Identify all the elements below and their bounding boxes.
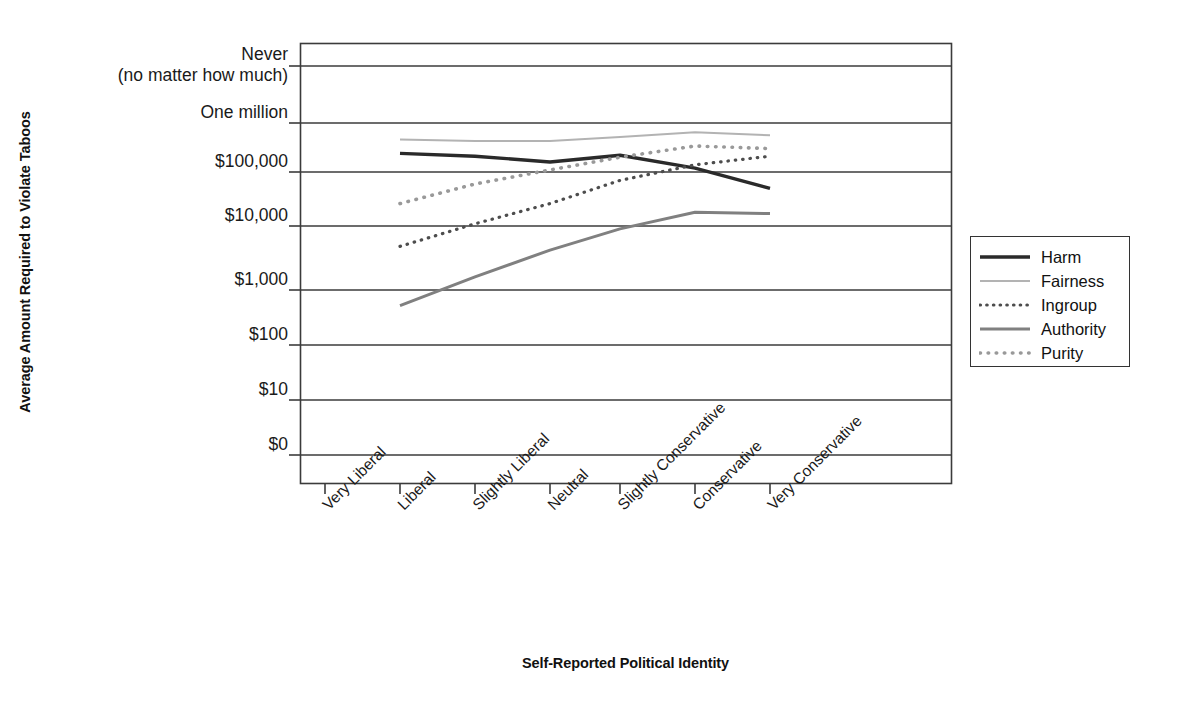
legend-label-fairness: Fairness [1041, 273, 1104, 290]
legend-label-purity: Purity [1041, 345, 1083, 362]
legend-swatch-fairness [979, 274, 1031, 288]
chart-legend: Harm Fairness Ingroup Authority Purity [970, 236, 1130, 367]
legend-label-harm: Harm [1041, 249, 1081, 266]
series-line-fairness [400, 132, 770, 141]
legend-label-authority: Authority [1041, 321, 1106, 338]
legend-swatch-authority [979, 322, 1031, 336]
chart-figure: Average Amount Required to Violate Taboo… [0, 0, 1185, 706]
legend-swatch-harm [979, 250, 1031, 264]
legend-item-purity[interactable]: Purity [979, 341, 1083, 365]
series-line-ingroup [400, 156, 770, 246]
data-series-layer [400, 132, 770, 305]
series-line-harm [400, 153, 770, 188]
legend-item-harm[interactable]: Harm [979, 245, 1081, 269]
legend-swatch-purity [979, 346, 1031, 360]
x-axis-title: Self-Reported Political Identity [300, 655, 951, 671]
legend-item-fairness[interactable]: Fairness [979, 269, 1104, 293]
gridlines [300, 66, 951, 455]
legend-item-authority[interactable]: Authority [979, 317, 1106, 341]
legend-swatch-ingroup [979, 298, 1031, 312]
legend-label-ingroup: Ingroup [1041, 297, 1097, 314]
legend-item-ingroup[interactable]: Ingroup [979, 293, 1097, 317]
y-axis-ticks [289, 66, 300, 455]
